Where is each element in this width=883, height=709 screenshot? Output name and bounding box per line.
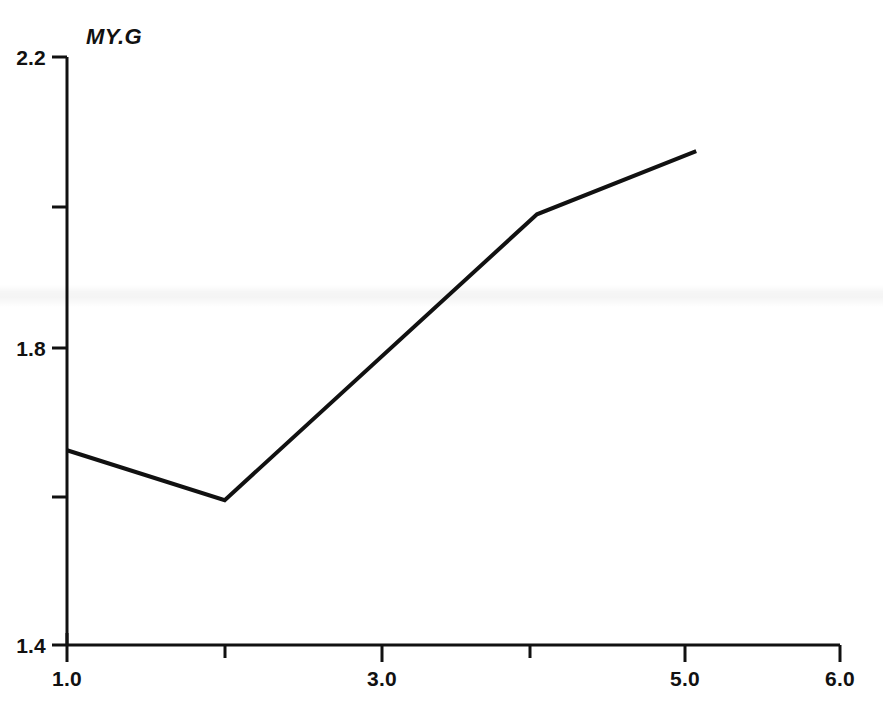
plot-area	[0, 0, 883, 709]
data-series-line	[67, 151, 696, 500]
x-tick-label-5.0: 5.0	[655, 667, 715, 691]
chart-title: MY.G	[86, 24, 142, 50]
chart-figure: MY.G 2.2 1.8 1.4 1.0 3.0 5.0 6.0	[0, 0, 883, 709]
y-tick-label-1.4: 1.4	[0, 634, 46, 658]
x-tick-label-1.0: 1.0	[37, 667, 97, 691]
y-tick-label-2.2: 2.2	[0, 46, 46, 70]
x-tick-label-6.0: 6.0	[810, 667, 870, 691]
y-tick-label-1.8: 1.8	[0, 337, 46, 361]
x-tick-label-3.0: 3.0	[352, 667, 412, 691]
